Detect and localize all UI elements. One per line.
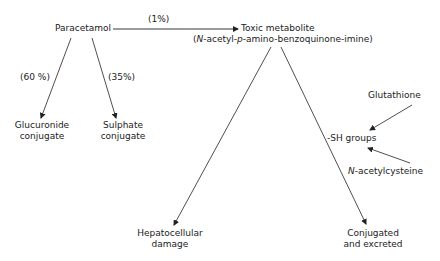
node-glucuronide-conjugate: Glucuronide conjugate: [12, 120, 72, 142]
arrow-to-hepatocellular: [174, 47, 271, 225]
node-sulphate-conjugate: Sulphate conjugate: [98, 120, 148, 142]
arrow-glutathione-to-sh: [370, 105, 412, 130]
node-sh-groups: -SH groups: [327, 133, 376, 144]
edge-label-1pct: (1%): [148, 14, 169, 25]
edge-label-60pct: (60 %): [20, 72, 50, 83]
edge-label-35pct: (35%): [108, 72, 135, 83]
node-paracetamol: Paracetamol: [55, 23, 111, 34]
node-glutathione: Glutathione: [368, 90, 421, 101]
arrow-nac-to-sh: [368, 148, 410, 163]
node-conjugated-excreted: Conjugated and excreted: [333, 228, 413, 250]
node-hepatocellular-damage: Hepatocellular damage: [130, 228, 210, 250]
node-n-acetylcysteine: N-acetylcysteine: [348, 166, 423, 177]
node-toxic-metabolite-name: (N-acetyl-p-amino-benzoquinone-imine): [193, 34, 373, 45]
node-toxic-metabolite: Toxic metabolite: [241, 23, 314, 34]
